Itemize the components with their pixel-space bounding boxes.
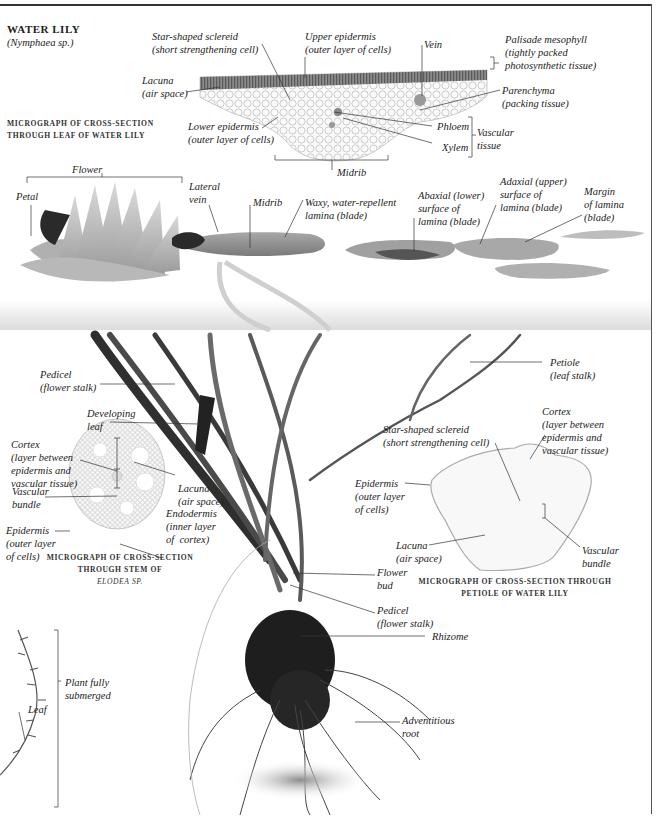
caption-leaf-micrograph-2: THROUGH LEAF OF WATER LILY [7, 130, 145, 142]
label-leaf-midrib: Midrib [337, 166, 366, 179]
label-elodea-leaf: Leaf [28, 703, 47, 716]
label-margin-lamina: Margin of lamina (blade) [584, 185, 624, 224]
page-title: WATER LILY [7, 23, 80, 35]
label-elodea-lacuna: Lacuna (air space) [178, 482, 224, 508]
caption-elodea-micrograph-3: ELODEA SP. [35, 576, 205, 588]
label-flower: Flower [72, 163, 102, 176]
label-adventitious-root: Adventitious root [402, 714, 455, 740]
lily-pads-right [345, 230, 645, 278]
label-adaxial-surface: Adaxial (upper) surface of lamina (blade… [500, 175, 567, 214]
label-plant-submerged: Plant fully submerged [65, 676, 111, 702]
label-petiole: Petiole (leaf stalk) [550, 356, 595, 382]
caption-elodea-micrograph-2: THROUGH STEM OF [35, 564, 205, 576]
caption-petiole-micrograph-2: PETIOLE OF WATER LILY [405, 588, 625, 600]
label-xylem: Xylem [442, 141, 468, 154]
label-petiole-sclereid: Star-shaped sclereid (short strengthenin… [383, 423, 489, 449]
label-petiole-vascular-bundle: Vascular bundle [582, 544, 619, 570]
caption-petiole-micrograph-1: MICROGRAPH OF CROSS-SECTION THROUGH [405, 576, 625, 588]
water-lily-flower [20, 182, 180, 282]
label-waxy-lamina: Waxy, water-repellent lamina (blade) [305, 196, 396, 222]
label-parenchyma: Parenchyma (packing tissue) [502, 84, 569, 110]
label-endodermis: Endodermis (inner layer of cortex) [166, 507, 217, 546]
label-developing-leaf: Developing leaf [87, 407, 135, 433]
label-pedicel-top: Pedicel (flower stalk) [40, 368, 96, 394]
label-lateral-vein: Lateral vein [189, 180, 220, 206]
label-abaxial-surface: Abaxial (lower) surface of lamina (blade… [418, 189, 484, 228]
label-palisade-mesophyll: Palisade mesophyll (tightly packed photo… [505, 33, 596, 72]
label-elodea-cortex: Cortex (layer between epidermis and vasc… [11, 438, 77, 490]
root-shadow [230, 760, 370, 800]
label-petiole-epidermis: Epidermis (outer layer of cells) [355, 477, 405, 516]
label-vascular-tissue: Vascular tissue [477, 126, 514, 152]
label-phloem: Phloem [437, 120, 469, 133]
label-lower-epidermis: Lower epidermis (outer layer of cells) [188, 120, 274, 146]
label-pedicel-bottom: Pedicel (flower stalk) [377, 604, 433, 630]
label-rhizome: Rhizome [432, 630, 468, 643]
caption-leaf-micrograph-1: MICROGRAPH OF CROSS-SECTION [7, 118, 154, 130]
lily-pad-left [172, 232, 325, 256]
page-subtitle: (Nymphaea sp.) [7, 37, 74, 48]
label-flower-bud: Flower bud [377, 566, 407, 592]
label-petiole-lacuna: Lacuna (air space) [396, 539, 442, 565]
label-vein: Vein [424, 38, 442, 51]
label-elodea-vascular-bundle: Vascular bundle [12, 485, 49, 511]
label-leaf-sclereid: Star-shaped sclereid (short strengthenin… [152, 30, 258, 56]
rhizome [245, 610, 335, 730]
petiole-cross-section [431, 444, 591, 570]
label-petal: Petal [16, 190, 38, 203]
label-surface-midrib: Midrib [253, 196, 282, 209]
label-leaf-lacuna: Lacuna (air space) [142, 74, 188, 100]
label-petiole-cortex: Cortex (layer between epidermis and vasc… [542, 405, 608, 457]
label-upper-epidermis: Upper epidermis (outer layer of cells) [305, 30, 391, 56]
caption-elodea-micrograph-1: MICROGRAPH OF CROSS-SECTION [35, 552, 205, 564]
